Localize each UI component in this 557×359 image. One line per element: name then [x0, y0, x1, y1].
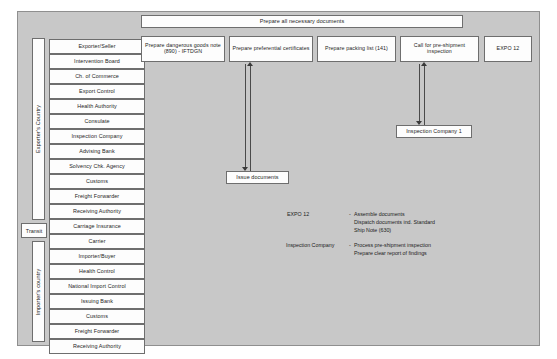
- actor-label: Receiving Authority: [73, 208, 121, 214]
- actor-label: Carrier: [88, 238, 105, 244]
- actor-row[interactable]: Ch. of Commerce: [49, 69, 145, 84]
- process-box-packing-list[interactable]: Prepare packing list (141): [317, 36, 396, 62]
- swimlane-transit: Transit: [21, 223, 47, 238]
- connector-line-down-inspection-company: [419, 64, 420, 124]
- actor-label: Consulate: [84, 118, 109, 124]
- actor-label: Freight Forwarder: [75, 193, 120, 199]
- actor-label: Customs: [86, 178, 108, 184]
- legend-dash: -: [349, 242, 351, 250]
- actor-row[interactable]: Importer/Buyer: [49, 249, 145, 264]
- process-label: Prepare preferential certificates: [233, 46, 310, 52]
- actor-row[interactable]: Customs: [49, 174, 145, 189]
- legend-value: Dispatch documents ind. Standard: [354, 219, 435, 227]
- swimlane-label: Importer's country: [36, 268, 42, 315]
- actor-label: Exporter/Seller: [78, 43, 115, 49]
- actor-row[interactable]: Carrier: [49, 234, 145, 249]
- actor-label: Solvency Chk. Agency: [69, 163, 125, 169]
- process-box-expo-12[interactable]: EXPO 12: [484, 36, 532, 62]
- legend-value: Assemble documents: [354, 211, 405, 219]
- actor-label: Ch. of Commerce: [75, 73, 119, 79]
- actor-row[interactable]: Carriage Insurance: [49, 219, 145, 234]
- connector-line-down-issue-documents: [245, 64, 246, 170]
- actor-row[interactable]: Receiving Authority: [49, 339, 145, 354]
- swimlane-importers-country: Importer's country: [32, 241, 45, 342]
- process-label: Prepare packing list (141): [325, 46, 388, 52]
- process-box-call-pre-shipment-inspection[interactable]: Call for pre-shipment inspection: [400, 36, 479, 62]
- legend-value: Prepare clear report of findings: [354, 250, 427, 258]
- actor-row[interactable]: Inspection Company: [49, 129, 145, 144]
- actor-label: Advising Bank: [79, 148, 114, 154]
- actor-label: Issuing Bank: [81, 298, 113, 304]
- actor-row[interactable]: Health Authority: [49, 99, 145, 114]
- swimlane-label: Transit: [26, 228, 42, 234]
- actor-label: Importer/Buyer: [78, 253, 115, 259]
- connector-line-up-certificates: [250, 64, 251, 171]
- actor-row[interactable]: Receiving Authority: [49, 204, 145, 219]
- actor-row[interactable]: Health Control: [49, 264, 145, 279]
- swimlane-exporters-country: Exporter's Country: [32, 38, 45, 220]
- actor-row[interactable]: Solvency Chk. Agency: [49, 159, 145, 174]
- process-label: Call for pre-shipment inspection: [403, 43, 476, 55]
- process-label: EXPO 12: [497, 46, 520, 52]
- actor-row[interactable]: Consulate: [49, 114, 145, 129]
- mid-box-label: Inspection Company 1: [406, 128, 462, 134]
- actor-label: Health Authority: [77, 103, 117, 109]
- actor-label: Intervention Board: [74, 58, 120, 64]
- arrowhead-up-certificates: [247, 62, 253, 66]
- actor-row[interactable]: Freight Forwarder: [49, 189, 145, 204]
- arrowhead-up-inspection: [421, 62, 427, 66]
- legend-inspection-company: Inspection Company - Process pre-shipmen…: [287, 242, 293, 290]
- actor-label: Customs: [86, 313, 108, 319]
- swimlane-label: Exporter's Country: [36, 105, 42, 153]
- actor-label: Health Control: [79, 268, 115, 274]
- mid-box-inspection-company-1[interactable]: Inspection Company 1: [396, 125, 472, 138]
- actor-label: National Import Control: [68, 283, 126, 289]
- connector-line-up-inspection: [424, 64, 425, 125]
- process-box-dangerous-goods-note[interactable]: Prepare dangerous goods note (890) - IFT…: [141, 36, 225, 62]
- actor-row[interactable]: Freight Forwarder: [49, 324, 145, 339]
- actor-row[interactable]: Exporter/Seller: [49, 39, 145, 54]
- mid-box-label: Issue documents: [236, 174, 278, 180]
- actor-label: Inspection Company: [72, 133, 123, 139]
- process-box-preferential-certificates[interactable]: Prepare preferential certificates: [229, 36, 313, 62]
- legend-key: EXPO 12: [287, 211, 309, 219]
- actor-row[interactable]: Customs: [49, 309, 145, 324]
- legend-value: Process pre-shipment inspection: [354, 242, 431, 250]
- legend-key: Inspection Company: [286, 242, 334, 250]
- mid-box-issue-documents[interactable]: Issue documents: [226, 171, 289, 184]
- actor-label: Receiving Authority: [73, 343, 121, 349]
- actor-row[interactable]: Advising Bank: [49, 144, 145, 159]
- actor-row[interactable]: National Import Control: [49, 279, 145, 294]
- actor-label: Export Control: [79, 88, 115, 94]
- legend-dash: -: [349, 211, 351, 219]
- actor-label: Carriage Insurance: [73, 223, 121, 229]
- banner-prepare-all-documents[interactable]: Prepare all necessary documents: [141, 15, 463, 28]
- banner-label: Prepare all necessary documents: [260, 18, 345, 24]
- actor-row[interactable]: Intervention Board: [49, 54, 145, 69]
- actor-label: Freight Forwarder: [75, 328, 120, 334]
- legend-value: Ship Note (630): [354, 227, 391, 235]
- process-label: Prepare dangerous goods note (890) - IFT…: [144, 43, 222, 55]
- diagram-canvas: Exporter's Country Transit Importer's co…: [0, 0, 557, 359]
- actor-row[interactable]: Export Control: [49, 84, 145, 99]
- actor-row[interactable]: Issuing Bank: [49, 294, 145, 309]
